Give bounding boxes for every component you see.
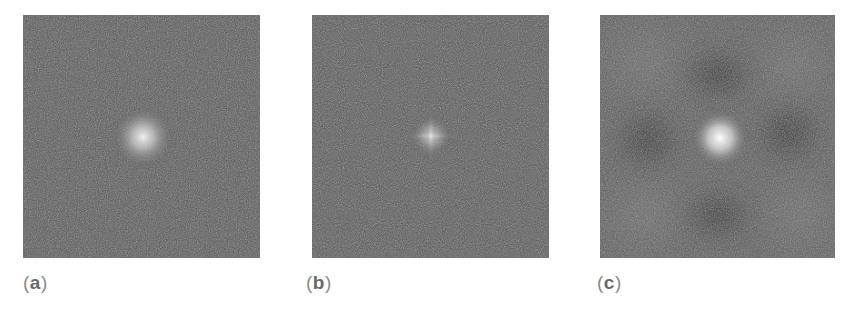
panel-letter-b: b [313, 272, 325, 293]
noise-image-b [312, 15, 549, 258]
figure-panel-b [312, 15, 549, 258]
panel-letter-c: c [604, 272, 615, 293]
panel-label-a: (a) [23, 272, 48, 294]
panel-label-b: (b) [306, 272, 332, 294]
panel-letter-a: a [30, 272, 41, 293]
panel-label-c: (c) [597, 272, 622, 294]
bright-spot-c [690, 108, 750, 168]
figure-panel-c [600, 15, 835, 258]
noise-image-c [600, 15, 835, 258]
bright-spot-a [111, 105, 175, 169]
figure-panel-a [23, 15, 260, 258]
noise-image-a [23, 15, 260, 258]
